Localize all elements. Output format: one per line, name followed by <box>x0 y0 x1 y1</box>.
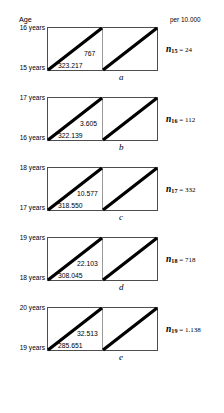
panel-c-n-value: 332 <box>185 186 196 194</box>
panel-a-age-top-label: 16 years <box>8 25 45 32</box>
panel-b-age-top-label: 17 years <box>8 95 45 102</box>
panel-a-base-value: 323.217 <box>58 63 83 70</box>
panel-b-base-value: 322.139 <box>58 133 83 140</box>
panel-c-age-top-label: 18 years <box>8 165 45 172</box>
panel-c-n-equals: = <box>177 186 184 194</box>
panel-c-base-value: 318.550 <box>58 203 83 210</box>
panel-b-n-value: 112 <box>185 116 195 124</box>
panel-c-letter: c <box>119 213 123 222</box>
panel-d-n-value: 718 <box>185 256 196 264</box>
panel-b-mid-value: 3.605 <box>80 121 97 128</box>
panel-d-age-top-label: 19 years <box>8 235 45 242</box>
panel-c-n-label: n17 = 332 <box>166 185 195 195</box>
panel-b-age-bottom-label: 16 years <box>8 135 45 142</box>
panel-d-letter: d <box>119 283 124 292</box>
panel-e-base-value: 285.651 <box>58 343 83 350</box>
panel-e-letter: e <box>119 353 123 362</box>
panel-a-letter: a <box>119 73 124 82</box>
panel-e-age-bottom-label: 19 years <box>8 345 45 352</box>
panel-d-n-label: n18 = 718 <box>166 255 195 265</box>
lexis-diagram-figure: Age per 10.000 <box>0 0 224 413</box>
panel-d-age-bottom-label: 18 years <box>8 275 45 282</box>
panel-d-mid-value: 22.103 <box>77 261 98 268</box>
panel-b-letter: b <box>119 143 124 152</box>
panel-a-n-label: n15 = 24 <box>166 45 192 55</box>
panel-a-age-bottom-label: 15 years <box>8 65 45 72</box>
panel-e-n-value: 1.138 <box>185 326 201 334</box>
panel-a-mid-value: 767 <box>84 51 95 58</box>
panel-e-n-label: n19 = 1.138 <box>166 325 201 335</box>
panel-b-n-label: n16 = 112 <box>166 115 195 125</box>
panel-e-age-top-label: 20 years <box>8 305 45 312</box>
panel-b-n-equals: = <box>177 116 184 124</box>
panel-d-n-equals: = <box>177 256 184 264</box>
panel-c-age-bottom-label: 17 years <box>8 205 45 212</box>
panel-c-mid-value: 10.577 <box>77 191 98 198</box>
panel-d-base-value: 308.045 <box>58 273 83 280</box>
panel-e-mid-value: 32.513 <box>77 331 98 338</box>
panel-e-n-equals: = <box>177 326 184 334</box>
panel-a-n-equals: = <box>177 46 184 54</box>
panel-a-n-value: 24 <box>185 46 192 54</box>
